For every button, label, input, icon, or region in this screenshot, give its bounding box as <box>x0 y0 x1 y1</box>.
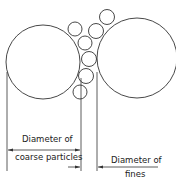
fine-particle-circle <box>82 52 97 67</box>
coarse-particle-circle <box>6 25 80 99</box>
coarse-label-line1: Diameter of <box>22 134 73 144</box>
fines-label-line1: Diameter of <box>111 155 162 165</box>
coarse-particle-circle <box>97 18 176 98</box>
fine-particle-circle <box>68 22 82 36</box>
fine-particle-circle <box>73 85 87 99</box>
arrowhead-icon <box>98 166 103 169</box>
arrowhead-icon <box>75 166 80 169</box>
fine-particle-circle <box>78 36 92 50</box>
fine-particle-circle <box>89 24 104 39</box>
fines-label-line2: fines <box>125 169 145 179</box>
arrowhead-icon <box>8 149 13 152</box>
coarse-label-line2: coarse particles <box>15 152 82 162</box>
fine-particle-circle <box>100 10 115 25</box>
